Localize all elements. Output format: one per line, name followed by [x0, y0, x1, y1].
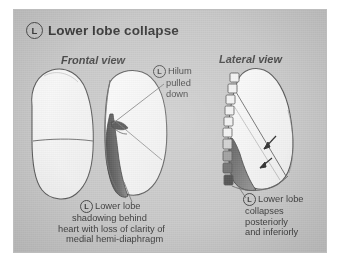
caption-line: heart with loss of clarity of — [58, 224, 165, 235]
caption-line: collapses — [243, 206, 303, 217]
left-side-marker-icon: L — [153, 65, 166, 78]
callout-line: Hilum — [168, 66, 192, 77]
left-side-marker-icon: L — [80, 200, 93, 213]
lateral-lung — [228, 68, 293, 190]
frontal-right-lung — [32, 69, 94, 199]
frontal-view-caption: L Lower lobe shadowing behind heart with… — [58, 200, 165, 245]
caption-line: Lower lobe — [95, 201, 140, 212]
caption-line: Lower lobe — [258, 194, 303, 205]
caption-line: shadowing behind — [58, 213, 165, 224]
figure-panel: L Lower lobe collapse Frontal view Later… — [14, 10, 326, 252]
callout-line: down — [153, 89, 192, 100]
lateral-view-caption: L Lower lobe collapses posteriorly and i… — [243, 193, 303, 238]
callout-line: pulled — [153, 78, 192, 89]
hilum-callout: L Hilum pulled down — [153, 65, 192, 99]
caption-line: medial hemi-diaphragm — [58, 234, 165, 245]
caption-line: posteriorly — [243, 217, 303, 228]
caption-line: and inferiorly — [243, 227, 303, 238]
left-side-marker-icon: L — [243, 193, 256, 206]
